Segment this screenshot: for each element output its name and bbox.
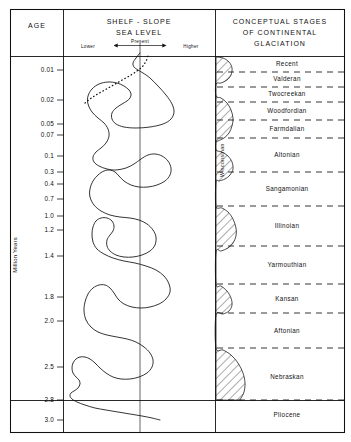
stage-label-yarmouthian: Yarmouthian: [267, 261, 306, 268]
stage-label-pliocene: Pliocene: [274, 411, 301, 418]
stage-label-farmdalian: Farmdalian: [270, 125, 305, 132]
stage-label-sangamonian: Sangamonian: [266, 185, 309, 193]
age-tick-label: 0.07: [41, 131, 54, 138]
age-tick-label: 0.1: [45, 152, 55, 159]
stage-label-altonian: Altonian: [274, 151, 300, 158]
age-tick-label: 3.0: [45, 416, 55, 423]
stage-label-kansan: Kansan: [275, 295, 299, 302]
stage-label-woodfordian: Woodfordian: [267, 107, 307, 114]
age-tick-label: 2.0: [45, 317, 55, 324]
geology-chart: AGE SHELF - SLOPE SEA LEVEL Lower Presen…: [0, 0, 351, 442]
sealevel-header-line2: SEA LEVEL: [116, 29, 162, 37]
stage-label-recent: Recent: [276, 60, 298, 67]
wisconsinan-bracket-label: Wisconsinan: [219, 143, 225, 177]
age-tick-label: 0.4: [45, 180, 55, 187]
sealevel-sub-lower: Lower: [81, 44, 95, 49]
age-tick-label: 0.01: [41, 66, 54, 73]
glaciation-header-line1: CONCEPTUAL STAGES: [233, 18, 327, 25]
age-tick-label: 0.02: [41, 96, 54, 103]
age-tick-label: 1.8: [45, 293, 55, 300]
sealevel-header-line1: SHELF - SLOPE: [107, 18, 172, 26]
age-tick-label: 0.7: [45, 195, 55, 202]
age-axis-title: Million Years: [12, 237, 18, 273]
stage-label-nebraskan: Nebraskan: [270, 373, 304, 380]
sealevel-sub-present: Present: [131, 39, 149, 44]
age-tick-label: 0.05: [41, 120, 54, 127]
glaciation-header-line2: OF CONTINENTAL: [243, 29, 318, 36]
age-column-header: AGE: [28, 22, 46, 29]
stage-label-aftonian: Aftonian: [274, 327, 300, 334]
age-tick-label: 1.0: [45, 212, 55, 219]
stage-label-valderan: Valderan: [273, 75, 301, 82]
age-tick-label: 1.2: [45, 226, 55, 233]
chart-svg: AGE SHELF - SLOPE SEA LEVEL Lower Presen…: [0, 0, 351, 442]
sealevel-sub-higher: Higher: [183, 44, 199, 49]
age-tick-label: 1.4: [45, 252, 55, 259]
age-tick-label: 0.3: [45, 168, 55, 175]
age-tick-label: 2.8: [45, 396, 55, 403]
age-tick-label: 2.5: [45, 363, 55, 370]
glaciation-header-line3: GLACIATION: [254, 40, 306, 47]
stage-label-illinoian: Illinoian: [275, 222, 300, 229]
stage-label-twocreekan: Twocreekan: [268, 90, 306, 97]
